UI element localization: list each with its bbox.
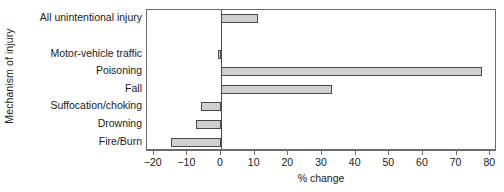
x-axis-tick bbox=[456, 150, 457, 155]
category-label: Fire/Burn bbox=[18, 136, 142, 147]
category-axis-labels: All unintentional injuryMotor-vehicle tr… bbox=[18, 9, 142, 150]
bar-all-unintentional-injury bbox=[221, 14, 258, 23]
plot-frame bbox=[146, 9, 496, 150]
plot-area bbox=[147, 10, 495, 149]
bar-drowning bbox=[196, 120, 221, 129]
zero-reference-line bbox=[221, 10, 222, 149]
bar-motor-vehicle-traffic bbox=[218, 50, 221, 59]
x-axis-tick bbox=[287, 150, 288, 155]
x-axis: % change −20−1001020304050607080 bbox=[146, 150, 496, 192]
category-label: All unintentional injury bbox=[18, 12, 142, 23]
category-label: Fall bbox=[18, 83, 142, 94]
x-axis-tick bbox=[489, 150, 490, 155]
category-label: Poisoning bbox=[18, 65, 142, 76]
x-axis-tick bbox=[321, 150, 322, 155]
bar-poisoning bbox=[221, 67, 482, 76]
x-axis-tick-label: 80 bbox=[469, 156, 504, 168]
x-axis-title: % change bbox=[146, 172, 496, 184]
bar-fire-burn bbox=[171, 138, 221, 147]
x-axis-tick bbox=[254, 150, 255, 155]
bar-chart-figure: Mechanism of injury All unintentional in… bbox=[0, 0, 504, 192]
category-label: Motor-vehicle traffic bbox=[18, 48, 142, 59]
x-axis-tick bbox=[388, 150, 389, 155]
x-axis-tick bbox=[153, 150, 154, 155]
x-axis-tick bbox=[186, 150, 187, 155]
y-axis-title: Mechanism of injury bbox=[0, 0, 18, 152]
x-axis-tick bbox=[355, 150, 356, 155]
category-label: Drowning bbox=[18, 118, 142, 129]
x-axis-tick bbox=[422, 150, 423, 155]
category-label: Suffocation/choking bbox=[18, 100, 142, 111]
y-axis-title-text: Mechanism of injury bbox=[3, 28, 15, 123]
bar-fall bbox=[221, 85, 332, 94]
x-axis-tick bbox=[220, 150, 221, 155]
bar-suffocation-choking bbox=[201, 102, 221, 111]
